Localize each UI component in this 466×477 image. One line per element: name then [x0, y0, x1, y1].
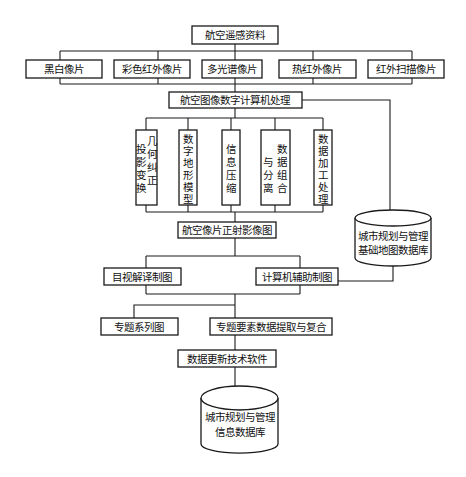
node-label: 航空像片正射影像图 [182, 224, 272, 236]
node-geometric-projection-correction[interactable]: 投 影 变 换 几 何 纠 正 [136, 130, 158, 205]
node-digital-terrain-model[interactable]: 数 字 地 形 模 型 [179, 130, 197, 205]
svg-text:纠: 纠 [147, 161, 157, 173]
svg-text:信息数据库: 信息数据库 [215, 426, 265, 438]
svg-text:形: 形 [183, 169, 194, 181]
node-data-combination-separation[interactable]: 与 分 离 数 据 组 合 [261, 130, 290, 205]
svg-text:变: 变 [136, 169, 147, 181]
node-thermal-infrared-photo[interactable]: 热红外像片 [279, 60, 356, 78]
svg-text:影: 影 [136, 156, 147, 168]
node-computer-aided-mapping[interactable]: 计算机辅助制图 [256, 268, 338, 285]
svg-text:型: 型 [183, 193, 193, 205]
svg-text:投: 投 [136, 143, 147, 155]
svg-text:字: 字 [183, 145, 193, 157]
svg-text:地: 地 [183, 157, 194, 169]
node-multispectral-photo[interactable]: 多光谱像片 [202, 60, 262, 78]
svg-text:数: 数 [183, 133, 194, 145]
svg-text:数: 数 [318, 133, 329, 145]
svg-text:信: 信 [226, 143, 236, 155]
node-label: 数据更新技术软件 [187, 353, 267, 365]
svg-text:处: 处 [318, 181, 329, 193]
svg-text:压: 压 [226, 169, 237, 181]
node-bw-photo[interactable]: 黑白像片 [26, 60, 102, 78]
svg-text:数: 数 [277, 143, 288, 155]
flowchart-canvas: 航空遥感资料 黑白像片 彩色红外像片 多光谱像片 热红外像片 红外扫描像片 航空… [0, 0, 466, 477]
svg-text:工: 工 [318, 169, 328, 181]
node-base-map-database[interactable]: 城市规划与管理 基础地图数据库 [355, 210, 431, 266]
node-orthophoto-map[interactable]: 航空像片正射影像图 [178, 222, 276, 238]
svg-text:加: 加 [318, 157, 328, 169]
svg-text:几: 几 [147, 135, 158, 147]
svg-text:合: 合 [277, 182, 288, 194]
node-label: 多光谱像片 [207, 63, 257, 75]
svg-text:与: 与 [263, 156, 273, 168]
node-infrared-scan-photo[interactable]: 红外扫描像片 [368, 60, 444, 78]
node-thematic-series-maps[interactable]: 专题系列图 [101, 318, 178, 335]
node-label: 彩色红外像片 [122, 63, 182, 75]
node-label: 红外扫描像片 [376, 63, 436, 75]
node-label: 专题系列图 [114, 321, 164, 333]
node-label: 黑白像片 [44, 63, 84, 75]
node-information-compression[interactable]: 信 息 压 缩 [222, 130, 240, 205]
node-label: 航空遥感资料 [205, 29, 266, 41]
node-label: 航空图像数字计算机处理 [180, 94, 291, 106]
svg-text:基础地图数据库: 基础地图数据库 [358, 244, 428, 256]
svg-text:息: 息 [226, 156, 236, 168]
node-color-infrared-photo[interactable]: 彩色红外像片 [114, 60, 190, 78]
svg-text:城市规划与管理: 城市规划与管理 [358, 230, 429, 242]
node-data-update-software[interactable]: 数据更新技术软件 [178, 350, 276, 367]
database-cylinder-top [201, 386, 278, 410]
svg-text:城市规划与管理: 城市规划与管理 [205, 411, 276, 423]
connector-to-thematic-maps [134, 305, 235, 318]
svg-text:正: 正 [147, 174, 157, 186]
node-thematic-data-extraction[interactable]: 专题要素数据提取与复合 [210, 318, 332, 335]
node-data-processing[interactable]: 数 据 加 工 处 理 [314, 130, 332, 205]
svg-text:据: 据 [277, 156, 288, 168]
svg-text:离: 离 [263, 182, 273, 194]
node-visual-interpretation-mapping[interactable]: 目视解译制图 [104, 268, 181, 285]
node-label: 专题要素数据提取与复合 [216, 321, 327, 333]
svg-text:换: 换 [136, 182, 147, 194]
node-aerial-remote-sensing-data[interactable]: 航空遥感资料 [192, 26, 278, 44]
database-cylinder-top [355, 210, 431, 226]
svg-text:组: 组 [277, 169, 288, 181]
svg-text:据: 据 [318, 145, 329, 157]
svg-text:模: 模 [183, 181, 194, 193]
svg-text:理: 理 [318, 193, 329, 205]
node-label: 热红外像片 [292, 63, 342, 75]
node-label: 计算机辅助制图 [262, 271, 332, 283]
node-label: 目视解译制图 [112, 271, 172, 283]
svg-text:何: 何 [147, 148, 158, 160]
node-digital-image-processing[interactable]: 航空图像数字计算机处理 [169, 92, 302, 108]
node-information-database[interactable]: 城市规划与管理 信息数据库 [201, 386, 278, 453]
svg-text:缩: 缩 [226, 182, 236, 194]
svg-text:分: 分 [263, 169, 274, 181]
